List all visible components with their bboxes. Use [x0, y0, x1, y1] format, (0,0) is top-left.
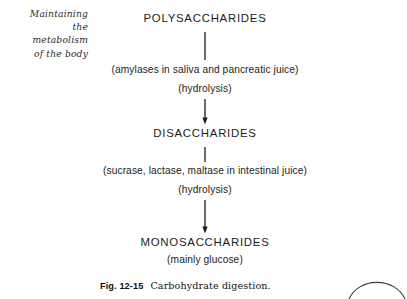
node-polysaccharides: POLYSACCHARIDES [55, 12, 355, 24]
step-1-agents: (amylases in saliva and pancreatic juice… [55, 64, 355, 75]
node-disaccharides: DISACCHARIDES [55, 127, 355, 139]
step-1-reaction: (hydrolysis) [55, 83, 355, 94]
margin-note-line-4: of the body [0, 47, 88, 60]
step-2-agents: (sucrase, lactase, maltase in intestinal… [55, 165, 355, 176]
node-monosaccharides: MONOSACCHARIDES [55, 236, 355, 248]
figure-caption: Fig. 12-15Carbohydrate digestion. [100, 280, 271, 291]
page-corner-arc-icon [347, 265, 407, 299]
step-2-reaction: (hydrolysis) [55, 184, 355, 195]
figure-number: Fig. 12-15 [100, 281, 143, 291]
figure-page: Maintaining the metabolism of the body P… [0, 0, 407, 299]
final-note: (mainly glucose) [55, 254, 355, 265]
figure-title: Carbohydrate digestion. [150, 280, 270, 291]
margin-note-line-3: metabolism [0, 33, 88, 46]
